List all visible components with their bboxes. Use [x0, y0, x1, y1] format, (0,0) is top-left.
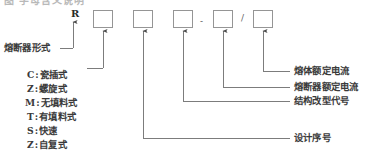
- leader-melt-current: [263, 31, 290, 71]
- char-box-1: [94, 11, 113, 28]
- char-box-5: [254, 11, 273, 28]
- leader-type-label: [60, 22, 73, 48]
- label-structure-variant-code: 结构改型代号: [294, 96, 349, 105]
- legend-name-5: 自复式: [39, 139, 67, 150]
- label-melt-rated-current: 熔体额定电流: [294, 66, 349, 75]
- leader-legend-to-box1: [87, 31, 103, 68]
- char-box-4: [214, 11, 233, 28]
- figure-canvas: 图 字母含义说明: [0, 0, 372, 152]
- leader-fuse-current: [223, 31, 290, 87]
- char-box-2: [134, 11, 153, 28]
- separator-dash: -: [200, 17, 203, 26]
- legend-code-5: Z: [27, 139, 34, 150]
- label-fuse-rated-current: 熔断器额定电流: [294, 82, 358, 91]
- prefix-code-R: R: [71, 9, 79, 19]
- label-fuse-type: 熔断器形式: [4, 43, 50, 52]
- separator-slash: /: [241, 14, 244, 23]
- char-box-3: [174, 11, 193, 28]
- leader-structure-code: [183, 31, 290, 101]
- leader-design-serial: [143, 31, 290, 138]
- label-design-serial-number: 设计序号: [294, 133, 331, 142]
- legend-item-5: Z:自复式: [27, 133, 67, 152]
